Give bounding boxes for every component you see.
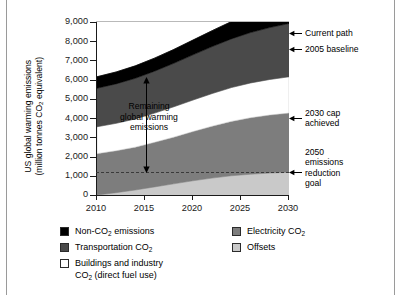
cap-2030-leader-icon	[289, 114, 302, 123]
callout-current-path-label: Current path	[305, 28, 353, 38]
callout-current-path: Current path	[305, 28, 353, 38]
callout-2005-baseline-label: 2005 baseline	[305, 44, 359, 54]
y-tick-label: 4,000	[0, 114, 88, 123]
legend-swatch-icon	[232, 227, 241, 236]
x-tick-label: 2025	[216, 203, 264, 213]
y-tick-label: 2,000	[0, 152, 88, 161]
y-tick-label: 5,000	[0, 94, 88, 103]
y-tick-label: 9,000	[0, 17, 88, 26]
legend-swatch-icon	[232, 243, 241, 252]
legend-item[interactable]: Non-CO2 emissions	[60, 226, 232, 239]
legend-swatch-icon	[60, 243, 69, 252]
x-tick-mark	[288, 195, 289, 200]
baseline-2005-leader-icon	[289, 45, 302, 54]
callout-2050-goal-line3: reduction	[305, 168, 340, 178]
callout-2050-goal-line4: goal	[305, 178, 321, 188]
legend-item-label: Non-CO2 emissions	[75, 226, 232, 239]
x-tick-mark	[96, 195, 97, 200]
remaining-line1: Remaining	[128, 101, 169, 111]
legend-column-right: Electricity CO2Offsets	[232, 226, 382, 257]
remaining-line3: emissions	[130, 122, 168, 132]
legend-swatch-icon	[60, 227, 69, 236]
callout-2030-cap-line1: 2030 cap	[305, 108, 340, 118]
x-tick-mark	[192, 195, 193, 200]
legend-item-label: Transportation CO2	[75, 242, 232, 255]
legend-item-label: Buildings and industryCO2 (direct fuel u…	[75, 258, 232, 282]
x-tick-label: 2020	[168, 203, 216, 213]
x-tick-mark	[144, 195, 145, 200]
y-tick-label: 1,000	[0, 171, 88, 180]
x-tick-label: 2015	[120, 203, 168, 213]
legend-item[interactable]: Offsets	[232, 242, 382, 254]
remaining-line2: global warming	[120, 112, 178, 122]
x-tick-label: 2010	[72, 203, 120, 213]
goal-2050-dashed-line	[96, 172, 289, 173]
legend-swatch-icon	[60, 259, 69, 268]
remaining-emissions-annotation: Remaining global warming emissions	[112, 101, 186, 133]
legend-item-label: Electricity CO2	[247, 226, 382, 239]
y-tick-label: 6,000	[0, 75, 88, 84]
callout-2050-goal-line1: 2050	[305, 147, 324, 157]
goal-2050-leader-icon	[289, 168, 302, 177]
y-tick-label: 7,000	[0, 56, 88, 65]
y-tick-label: 3,000	[0, 133, 88, 142]
y-tick-label: 0	[0, 190, 88, 199]
chart-legend: Non-CO2 emissionsTransportation CO2Build…	[60, 226, 390, 288]
figure-frame-right-rule	[394, 0, 395, 295]
figure-container: US global warming emissions (million ton…	[0, 0, 401, 295]
legend-column-left: Non-CO2 emissionsTransportation CO2Build…	[60, 226, 232, 286]
callout-2050-goal-line2: emissions	[305, 157, 343, 167]
y-tick-label: 8,000	[0, 37, 88, 46]
legend-item-label: Offsets	[247, 242, 382, 253]
callout-2030-cap-line2: achieved	[305, 118, 339, 128]
current-path-leader-icon	[289, 29, 302, 38]
x-tick-label: 2030	[264, 203, 312, 213]
callout-2050-goal: 2050 emissions reduction goal	[305, 147, 343, 189]
legend-item[interactable]: Buildings and industryCO2 (direct fuel u…	[60, 258, 232, 282]
x-tick-mark	[240, 195, 241, 200]
legend-item[interactable]: Transportation CO2	[60, 242, 232, 255]
callout-2030-cap: 2030 cap achieved	[305, 108, 340, 129]
legend-item[interactable]: Electricity CO2	[232, 226, 382, 239]
callout-2005-baseline: 2005 baseline	[305, 44, 359, 54]
